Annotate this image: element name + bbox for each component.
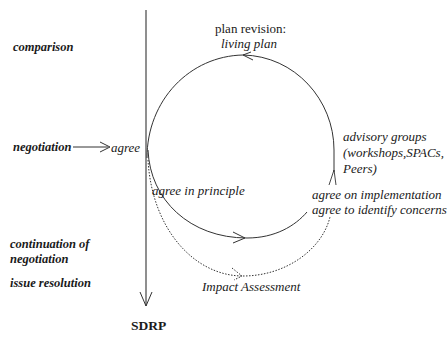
split-line-left: [329, 170, 334, 185]
node-advisory-line3: Peers): [343, 161, 377, 176]
node-advisory-line2: (workshops,SPACs,: [343, 145, 444, 160]
impact-arc: [148, 160, 330, 276]
node-agree-in-principle: agree in principle: [152, 183, 245, 198]
revision-cycle-arc: [147, 55, 334, 172]
stage-comparison: comparison: [13, 40, 73, 55]
node-living-plan: living plan: [221, 36, 277, 51]
node-sdrp: SDRP: [131, 318, 166, 333]
node-impact-assessment: Impact Assessment: [202, 279, 300, 294]
node-agree-to-identify: agree to identify concerns: [312, 202, 447, 217]
node-plan-revision: plan revision:: [215, 21, 286, 36]
node-agree-on-implementation: agree on implementation: [312, 187, 442, 202]
node-agree: agree: [111, 140, 140, 155]
stage-issue-resolution: issue resolution: [10, 276, 91, 291]
stage-continuation-line2: negotiation: [10, 252, 68, 267]
stage-negotiation: negotiation: [13, 140, 71, 155]
stage-continuation-line1: continuation of: [10, 237, 90, 252]
split-line-right: [334, 170, 336, 185]
node-advisory-line1: advisory groups: [343, 129, 427, 144]
